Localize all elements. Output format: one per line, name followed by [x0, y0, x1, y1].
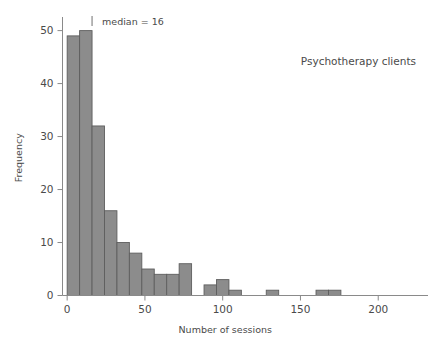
histogram-bar: [167, 274, 179, 295]
y-tick-label: 10: [40, 236, 53, 248]
histogram-bar: [316, 290, 328, 295]
median-annotation-label: median = 16: [102, 16, 164, 27]
x-tick-label: 100: [213, 303, 233, 315]
histogram-bar: [117, 243, 129, 296]
x-tick-label: 150: [290, 303, 310, 315]
series-label: Psychotherapy clients: [301, 55, 416, 67]
x-axis-title: Number of sessions: [179, 324, 273, 335]
chart-canvas: 01020304050 050100150200 median = 16 Num…: [0, 0, 437, 353]
histogram-figure: 01020304050 050100150200 median = 16 Num…: [0, 0, 437, 353]
histogram-bar: [67, 36, 79, 296]
y-axis-title: Frequency: [13, 133, 24, 182]
histogram-bar: [142, 269, 154, 295]
histogram-bar: [216, 280, 228, 296]
y-tick-label: 30: [40, 130, 53, 142]
x-tick-label: 200: [368, 303, 388, 315]
y-tick-label: 40: [40, 77, 53, 89]
histogram-bar: [229, 290, 241, 295]
x-tick-label: 50: [138, 303, 151, 315]
histogram-bar: [266, 290, 278, 295]
y-tick-label: 20: [40, 183, 53, 195]
histogram-bar: [104, 211, 116, 296]
histogram-bar: [129, 253, 141, 295]
histogram-bar: [80, 31, 92, 296]
histogram-bar: [328, 290, 340, 295]
x-tick-label: 0: [64, 303, 71, 315]
histogram-bar: [154, 274, 166, 295]
chart-annotations: median = 16: [92, 16, 164, 27]
histogram-bar: [179, 264, 191, 296]
y-tick-label: 0: [47, 289, 54, 301]
histogram-bar: [92, 126, 104, 296]
chart-background: [0, 0, 437, 353]
histogram-bar: [204, 285, 216, 296]
y-tick-label: 50: [40, 24, 53, 36]
